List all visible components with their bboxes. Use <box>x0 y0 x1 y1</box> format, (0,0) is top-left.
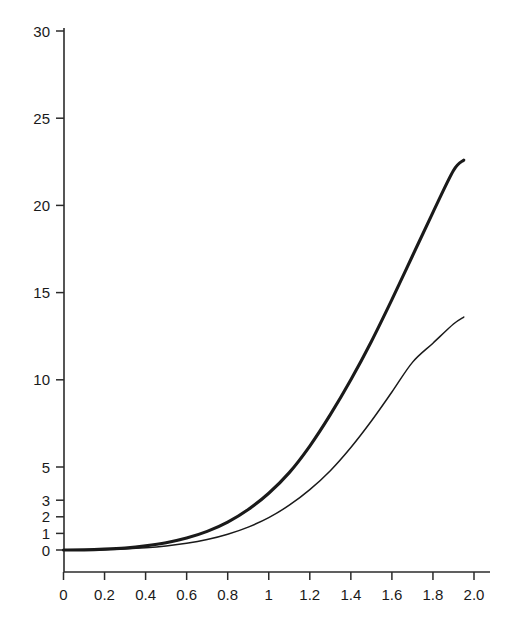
line-chart-canvas: 012351015202530 00.20.40.60.811.21.41.61… <box>0 0 506 625</box>
x-tick-label-0: 0 <box>59 586 67 603</box>
x-tick-label-1.4: 1.4 <box>340 586 361 603</box>
x-tick-label-1.8: 1.8 <box>423 586 444 603</box>
x-tick-label-0.2: 0.2 <box>94 586 115 603</box>
x-tick-label-2.0: 2.0 <box>464 586 485 603</box>
x-tick-label-0.4: 0.4 <box>135 586 156 603</box>
x-axis-ticks <box>64 572 475 580</box>
y-tick-label-2: 2 <box>42 508 50 525</box>
series-upper-curve <box>64 160 464 550</box>
y-tick-label-30: 30 <box>33 23 50 40</box>
chart-figure: 012351015202530 00.20.40.60.811.21.41.61… <box>0 0 506 625</box>
y-axis-tick-labels: 012351015202530 <box>33 23 50 559</box>
x-tick-label-1: 1 <box>265 586 273 603</box>
x-tick-label-1.6: 1.6 <box>381 586 402 603</box>
x-tick-label-0.6: 0.6 <box>176 586 197 603</box>
data-series-group <box>64 160 464 550</box>
x-tick-label-0.8: 0.8 <box>217 586 238 603</box>
y-tick-label-3: 3 <box>42 492 50 509</box>
y-tick-label-15: 15 <box>33 284 50 301</box>
x-axis: 00.20.40.60.811.21.41.61.82.0 <box>59 572 490 603</box>
y-tick-label-10: 10 <box>33 371 50 388</box>
x-axis-tick-labels: 00.20.40.60.811.21.41.61.82.0 <box>59 586 484 603</box>
y-tick-label-25: 25 <box>33 110 50 127</box>
y-tick-label-5: 5 <box>42 459 50 476</box>
x-tick-label-1.2: 1.2 <box>299 586 320 603</box>
series-lower-curve <box>64 317 464 550</box>
y-axis-ticks <box>56 31 64 550</box>
y-tick-label-20: 20 <box>33 197 50 214</box>
y-tick-label-0: 0 <box>42 542 50 559</box>
y-tick-label-1: 1 <box>42 525 50 542</box>
y-axis: 012351015202530 <box>33 23 64 573</box>
